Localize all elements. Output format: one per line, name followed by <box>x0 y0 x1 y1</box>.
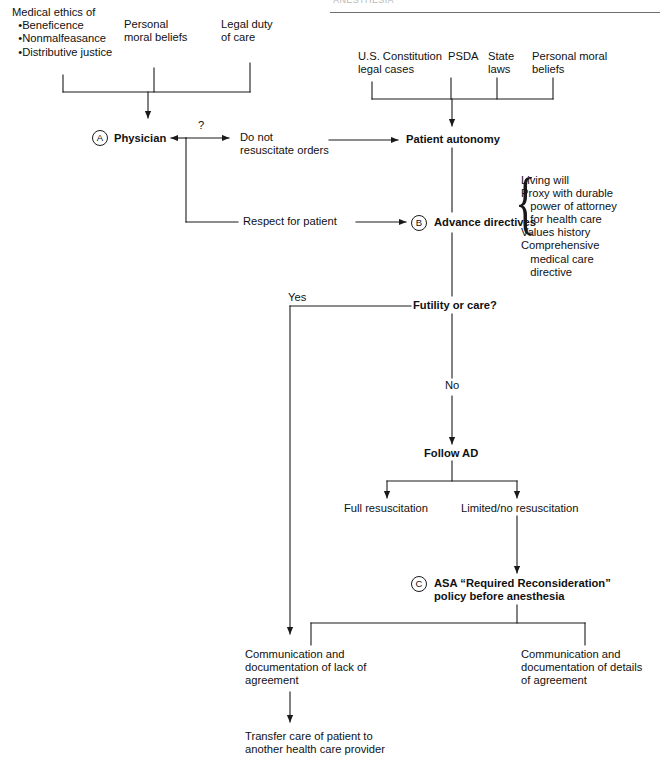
label-yes: Yes <box>288 291 306 304</box>
node-transfer-care: Transfer care of patient to another heal… <box>245 730 385 756</box>
node-us-constitution: U.S. Constitution legal cases <box>358 50 442 76</box>
node-dnr-orders: Do not resuscitate orders <box>240 131 329 157</box>
node-medical-ethics: Medical ethics of •Beneficence •Nonmalfe… <box>12 6 112 59</box>
node-limited-no-resuscitation: Limited/no resuscitation <box>461 502 579 515</box>
header-rule <box>330 12 660 13</box>
node-physician: Physician <box>114 132 166 145</box>
label-question-mark: ? <box>198 119 204 132</box>
label-no: No <box>445 379 459 392</box>
node-advance-directives-list: Living will Proxy with durable power of … <box>521 174 617 279</box>
node-futility-or-care: Futility or care? <box>413 299 497 312</box>
header-cropped-text: ANESTHESIA <box>333 0 513 4</box>
marker-b-icon: B <box>411 215 427 231</box>
node-full-resuscitation: Full resuscitation <box>344 502 428 515</box>
node-respect-for-patient: Respect for patient <box>243 215 337 228</box>
node-patient-autonomy: Patient autonomy <box>406 133 500 146</box>
marker-a-icon: A <box>92 130 108 146</box>
node-communication-details-of-agreement: Communication and documentation of detai… <box>521 648 642 688</box>
marker-c-icon: C <box>411 576 427 592</box>
node-state-laws: State laws <box>488 50 514 76</box>
node-legal-duty-of-care: Legal duty of care <box>221 18 273 44</box>
node-communication-lack-of-agreement: Communication and documentation of lack … <box>245 648 366 688</box>
node-personal-moral-beliefs-left: Personal moral beliefs <box>124 18 187 44</box>
flowchart-page: ANESTHESIA <box>0 0 660 767</box>
node-psda: PSDA <box>448 50 478 63</box>
node-asa-policy: ASA “Required Reconsideration” policy be… <box>434 577 611 603</box>
node-personal-moral-beliefs-right: Personal moral beliefs <box>532 50 607 76</box>
node-follow-ad: Follow AD <box>424 447 478 460</box>
